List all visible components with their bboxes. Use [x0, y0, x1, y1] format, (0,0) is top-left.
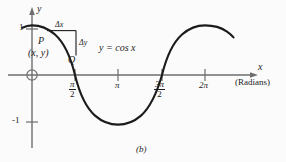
delta-x-label: Δx — [55, 21, 63, 29]
delta-y-label: Δy — [79, 39, 87, 47]
x-axis-units-label: (Radians) — [235, 78, 270, 87]
y-axis-arrow — [29, 7, 35, 15]
y-axis-label: y — [37, 4, 41, 14]
x-tick-label-pi-over-2-num: π — [69, 80, 76, 89]
point-q-label: Q — [68, 55, 75, 65]
figure-caption: (b) — [136, 145, 147, 154]
point-p-coords-label: (x, y) — [28, 48, 49, 58]
figure-cosine-secant: y x (Radians) 1 -1 π 2 π 3π 2 2π y = cos… — [0, 0, 286, 162]
x-axis-label: x — [258, 62, 262, 72]
x-tick-label-pi: π — [115, 81, 120, 90]
x-tick-label-3pi-over-2-den: 2 — [154, 89, 165, 99]
x-tick-label-pi-over-2-den: 2 — [69, 89, 76, 99]
equation-label: y = cos x — [99, 43, 135, 53]
y-tick-label-minus-1: -1 — [12, 116, 20, 125]
x-tick-label-3pi-over-2: 3π 2 — [154, 80, 165, 100]
x-tick-label-3pi-over-2-num: 3π — [154, 80, 165, 89]
x-tick-label-pi-over-2: π 2 — [69, 80, 76, 100]
point-p-label: P — [38, 36, 44, 46]
x-tick-label-2pi: 2π — [199, 81, 208, 90]
y-tick-label-1: 1 — [19, 23, 24, 32]
